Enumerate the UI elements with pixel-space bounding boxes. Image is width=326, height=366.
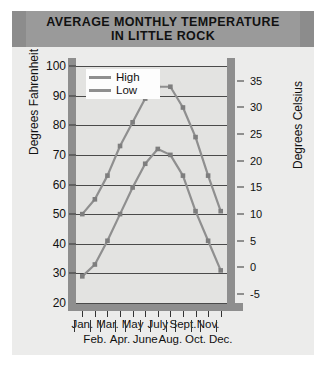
y-tick-mark-right <box>237 107 244 108</box>
x-tick-mark <box>133 311 134 317</box>
x-tick-mark <box>82 311 83 317</box>
legend-swatch-low-icon <box>89 89 111 92</box>
y-tick-mark-right <box>237 80 244 81</box>
x-label-separator <box>191 320 192 332</box>
x-label-separator <box>175 320 176 332</box>
x-label-separator <box>166 320 167 332</box>
y-tick-label-c-5: 5 <box>250 235 256 247</box>
y-tick-label-f-100: 100 <box>46 59 66 73</box>
y-tick-mark-left <box>69 184 76 185</box>
x-axis-label-sept: Sept. <box>170 318 197 330</box>
legend-label-high: High <box>116 71 140 84</box>
y-tick-mark-left <box>69 243 76 244</box>
data-point <box>130 185 135 190</box>
data-point <box>168 153 173 158</box>
x-tick-mark <box>183 311 184 317</box>
y-tick-label-f-60: 60 <box>53 178 66 192</box>
legend-label-low: Low <box>116 84 137 97</box>
data-point <box>193 135 198 140</box>
chart-legend: High Low <box>86 69 160 99</box>
x-tick-mark <box>208 311 209 317</box>
series-line-high <box>82 87 220 214</box>
y-tick-label-c--5: -5 <box>250 288 260 300</box>
data-point <box>181 105 186 110</box>
data-point <box>93 197 98 202</box>
y-axis-left-title: Degrees Fahrenheit <box>27 22 41 182</box>
y-tick-mark-right <box>237 187 244 188</box>
x-label-separator <box>100 320 101 332</box>
x-label-separator <box>115 320 116 332</box>
data-point <box>143 161 148 166</box>
y-axis-right-title: Degrees Celsius <box>291 45 305 205</box>
data-point <box>130 120 135 125</box>
x-label-separator <box>140 320 141 332</box>
x-label-separator <box>216 320 217 332</box>
x-axis-label-oct: Oct. <box>185 333 206 345</box>
y-tick-mark-right <box>237 134 244 135</box>
x-label-separator <box>150 320 151 332</box>
chart-title-line-2: IN LITTLE ROCK <box>46 29 279 43</box>
data-point <box>206 238 211 243</box>
x-tick-mark <box>158 311 159 317</box>
y-tick-mark-right <box>237 160 244 161</box>
data-point <box>218 268 223 273</box>
x-axis-label-feb: Feb. <box>83 333 106 345</box>
data-point <box>118 212 123 217</box>
legend-item-low: Low <box>89 84 157 97</box>
x-axis-label-aug: Aug. <box>159 333 183 345</box>
y-tick-label-f-50: 50 <box>53 207 66 221</box>
y-tick-label-c-0: 0 <box>250 261 256 273</box>
y-tick-label-f-30: 30 <box>53 266 66 280</box>
x-axis-label-june: June <box>133 333 158 345</box>
x-tick-mark <box>120 311 121 317</box>
y-tick-mark-right <box>237 267 244 268</box>
chart-figure: AVERAGE MONTHLY TEMPERATURE IN LITTLE RO… <box>0 0 326 366</box>
x-tick-mark <box>196 311 197 317</box>
data-point <box>206 173 211 178</box>
x-label-separator <box>125 320 126 332</box>
x-label-separator <box>74 320 75 332</box>
y-tick-mark-left <box>69 214 76 215</box>
plot-area <box>76 66 227 303</box>
y-tick-mark-left <box>69 66 76 67</box>
y-tick-label-c-30: 30 <box>250 101 262 113</box>
y-tick-label-c-10: 10 <box>250 208 262 220</box>
y-tick-label-f-20: 20 <box>53 296 66 310</box>
y-tick-label-f-40: 40 <box>53 237 66 251</box>
data-point <box>168 84 173 89</box>
y-tick-mark-left <box>69 125 76 126</box>
y-tick-mark-right <box>237 294 244 295</box>
gridline <box>76 303 227 304</box>
data-point <box>155 147 160 152</box>
y-tick-mark-right <box>237 240 244 241</box>
data-point <box>105 173 110 178</box>
data-point <box>80 274 85 279</box>
x-axis-label-apr: Apr. <box>110 333 130 345</box>
y-tick-label-c-15: 15 <box>250 181 262 193</box>
y-tick-label-f-90: 90 <box>53 89 66 103</box>
series-line-low <box>82 149 220 276</box>
data-point <box>105 238 110 243</box>
y-tick-label-c-25: 25 <box>250 128 262 140</box>
y-tick-label-f-70: 70 <box>53 148 66 162</box>
x-tick-mark <box>221 311 222 317</box>
data-point <box>193 209 198 214</box>
chart-title-line-1: AVERAGE MONTHLY TEMPERATURE <box>46 15 279 29</box>
data-point <box>181 173 186 178</box>
x-tick-mark <box>170 311 171 317</box>
x-tick-mark <box>95 311 96 317</box>
page-title: AVERAGE MONTHLY TEMPERATURE IN LITTLE RO… <box>46 15 279 43</box>
y-tick-label-c-20: 20 <box>250 155 262 167</box>
y-tick-mark-left <box>69 154 76 155</box>
series-lines <box>76 66 227 303</box>
x-axis-bar <box>68 303 243 311</box>
y-tick-mark-left <box>69 273 76 274</box>
chart-title-banner: AVERAGE MONTHLY TEMPERATURE IN LITTLE RO… <box>26 11 300 47</box>
y-tick-label-c-35: 35 <box>250 75 262 87</box>
y-tick-label-f-80: 80 <box>53 118 66 132</box>
x-tick-mark <box>145 311 146 317</box>
y-axis-right-bar <box>227 58 235 311</box>
data-point <box>118 144 123 149</box>
legend-swatch-high-icon <box>89 76 111 79</box>
data-point <box>218 209 223 214</box>
